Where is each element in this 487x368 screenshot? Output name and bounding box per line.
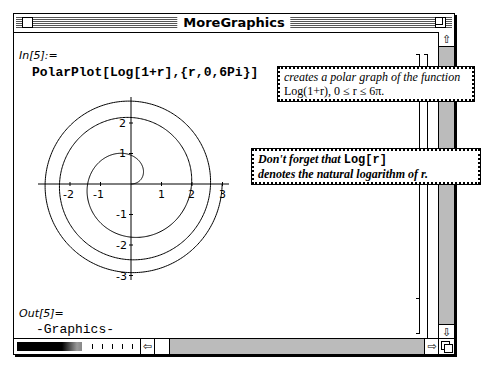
close-box[interactable] — [22, 17, 33, 28]
scroll-right-arrow[interactable]: ⇨ — [424, 339, 439, 354]
ruler-fill — [17, 342, 82, 351]
svg-text:-2: -2 — [116, 239, 127, 252]
note1-line1: creates a polar graph of the function — [284, 70, 460, 84]
scroll-thumb[interactable] — [155, 339, 170, 354]
notebook-window: MoreGraphics In[5]:= PolarPlot[Log[1+r],… — [13, 13, 455, 355]
svg-text:2: 2 — [119, 117, 126, 130]
note1-line2: Log(1+r), 0 ≤ r ≤ 6π. — [284, 84, 468, 98]
title-bar[interactable]: MoreGraphics — [14, 14, 454, 33]
output-value: -Graphics- — [36, 322, 114, 337]
zoom-box[interactable] — [435, 17, 446, 28]
cell-bracket-output[interactable] — [416, 298, 420, 334]
svg-text:3: 3 — [219, 188, 226, 201]
window-title: MoreGraphics — [177, 15, 290, 31]
horizontal-scrollbar[interactable]: ⇦ ⇨ — [14, 338, 439, 354]
svg-text:-1: -1 — [93, 188, 104, 201]
magnification-ruler[interactable] — [14, 339, 140, 354]
note2-prefix: Don't forget that — [258, 152, 344, 166]
spiral-curve — [45, 101, 222, 273]
annotation-note-1: creates a polar graph of the function Lo… — [278, 67, 474, 101]
grow-box[interactable] — [438, 338, 454, 354]
svg-text:-2: -2 — [63, 188, 74, 201]
svg-text:-1: -1 — [116, 208, 127, 221]
scroll-up-arrow[interactable]: ⇧ — [439, 32, 454, 47]
output-label: Out[5]= — [19, 307, 64, 320]
tick-labels: -2-1 123 21 -1-2-3 — [63, 117, 226, 283]
annotation-note-2: Don't forget that Log[r] denotes the nat… — [252, 149, 480, 184]
note2-code: Log[r] — [344, 153, 387, 167]
scroll-left-arrow[interactable]: ⇦ — [140, 339, 155, 354]
note2-line2: denotes the natural logarithm of r. — [258, 167, 428, 181]
scroll-down-arrow[interactable]: ⇩ — [439, 324, 454, 339]
svg-text:1: 1 — [158, 188, 165, 201]
